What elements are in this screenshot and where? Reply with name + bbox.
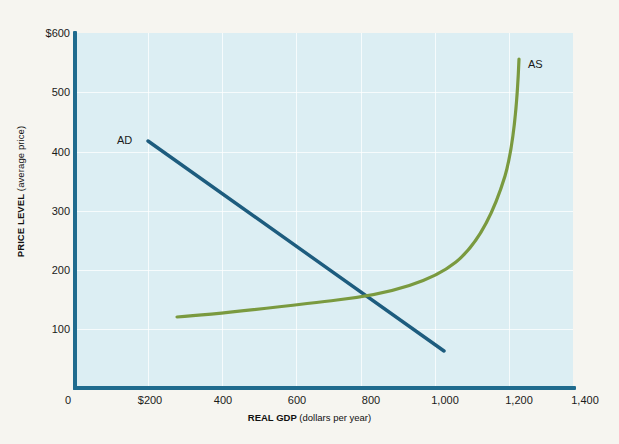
x-tick-label: 1,400: [571, 394, 599, 406]
y-tick-label: 300: [26, 205, 70, 217]
y-tick-label: $600: [26, 27, 70, 39]
ad-curve-label: AD: [117, 134, 132, 146]
gridline-horizontal: [76, 211, 573, 212]
x-axis-title: REAL GDP (dollars per year): [0, 412, 619, 423]
x-axis-title-strong: REAL GDP: [248, 412, 297, 423]
x-tick-label: $200: [138, 394, 162, 406]
x-axis-tick-labels: 0 $200 400 600 800 1,000 1,200 1,400: [0, 394, 619, 410]
ad-as-chart-figure: AD AS $600 500 400 300 200 100 0 $200 40…: [0, 0, 619, 444]
y-axis-tick-labels: $600 500 400 300 200 100: [18, 0, 70, 444]
y-axis-title-strong: PRICE LEVEL: [15, 194, 26, 257]
gridline-horizontal: [76, 92, 573, 93]
x-tick-label: 400: [214, 394, 232, 406]
x-tick-label: 1,200: [505, 394, 533, 406]
y-tick-label: 100: [26, 323, 70, 335]
y-axis-line: [73, 31, 77, 390]
as-curve-label: AS: [528, 58, 543, 70]
gridline-horizontal: [76, 270, 573, 271]
x-tick-label: 600: [288, 394, 306, 406]
x-axis-title-rest: (dollars per year): [297, 412, 371, 423]
y-axis-title-rest: (average price): [15, 126, 26, 194]
y-tick-label: 200: [26, 264, 70, 276]
x-tick-label: 800: [362, 394, 380, 406]
y-axis-title: PRICE LEVEL (average price): [15, 112, 26, 272]
x-tick-label: 0: [65, 394, 71, 406]
gridline-horizontal: [76, 329, 573, 330]
gridline-horizontal: [76, 152, 573, 153]
x-axis-line: [73, 386, 576, 390]
y-tick-label: 400: [26, 146, 70, 158]
plot-area: [76, 33, 573, 388]
x-tick-label: 1,000: [431, 394, 459, 406]
y-tick-label: 500: [26, 86, 70, 98]
